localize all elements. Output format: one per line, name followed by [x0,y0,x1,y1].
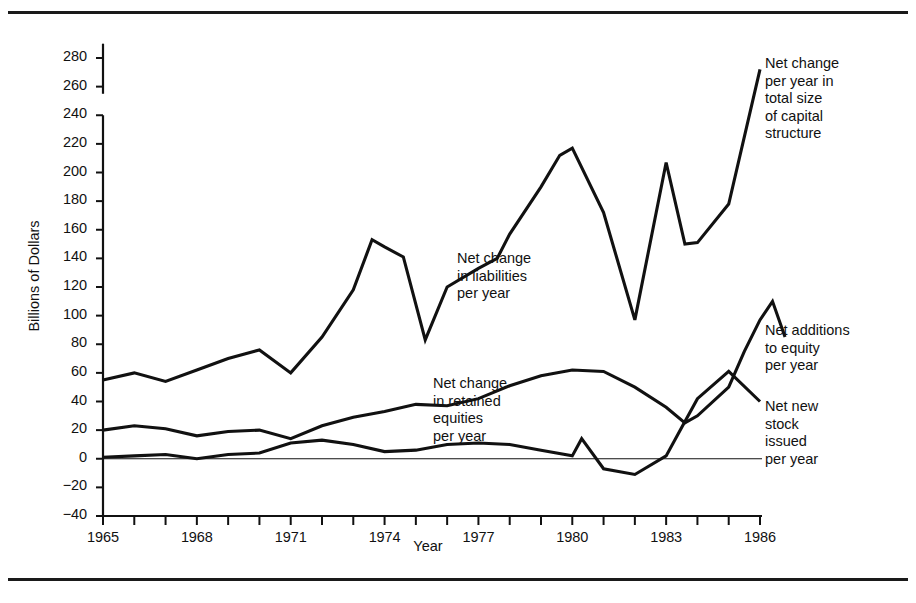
annotation-net-new-stock-issued: Net new stock issued per year [765,398,915,468]
y-tick-label: 120 [41,277,87,293]
x-tick-label: 1983 [636,529,696,545]
y-tick-label: 20 [41,420,87,436]
tick-marks [96,58,760,525]
x-tick-label: 1965 [73,529,133,545]
y-tick-label: 280 [41,48,87,64]
y-tick-label: 160 [41,220,87,236]
y-tick-label: 100 [41,306,87,322]
y-axis-title: Billions of Dollars [26,196,42,356]
annotation-total-capital-structure: Net change per year in total size of cap… [765,55,910,143]
y-tick-label: 140 [41,248,87,264]
x-tick-label: 1986 [730,529,790,545]
y-tick-label: 200 [41,163,87,179]
annotation-retained-equities: Net change in retained equities per year [433,375,583,445]
x-tick-label: 1980 [542,529,602,545]
y-tick-label: 40 [41,392,87,408]
x-tick-label: 1968 [167,529,227,545]
figure-container: 280260240220200180160140120100806040200−… [0,0,916,603]
y-tick-label: 260 [41,77,87,93]
annotation-net-additions-to-equity: Net additions to equity per year [765,322,915,375]
y-tick-label: 220 [41,134,87,150]
y-tick-label: 180 [41,191,87,207]
y-tick-label: −40 [41,506,87,522]
y-tick-label: 0 [41,449,87,465]
annotation-liabilities: Net change in liabilities per year [457,250,607,303]
x-tick-label: 1971 [261,529,321,545]
series-line-total-capital-structure [103,69,760,381]
x-axis-title: Year [368,538,488,554]
y-tick-label: −20 [41,477,87,493]
axis-lines [103,44,762,516]
y-tick-label: 240 [41,105,87,121]
y-tick-label: 60 [41,363,87,379]
y-tick-label: 80 [41,334,87,350]
